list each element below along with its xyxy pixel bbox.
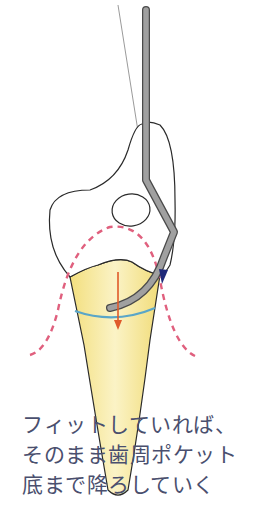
caption-line-1: フィットしていれば、 xyxy=(22,410,262,440)
caption: フィットしていれば、 そのまま歯周ポケット 底まで降ろしていく xyxy=(22,410,262,500)
caption-line-2: そのまま歯周ポケット xyxy=(22,440,262,470)
caption-line-3: 底まで降ろしていく xyxy=(22,470,262,500)
